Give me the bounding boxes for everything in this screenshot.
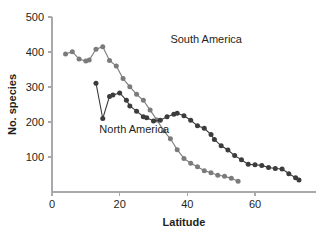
y-tick-label: 100 xyxy=(26,151,44,163)
y-tick-label: 500 xyxy=(26,11,44,23)
y-axis-title: No. species xyxy=(6,74,18,135)
data-point xyxy=(134,109,139,114)
data-point xyxy=(148,108,153,113)
data-point xyxy=(266,165,271,170)
data-point xyxy=(70,49,75,54)
data-point xyxy=(246,162,251,167)
x-tick-label: 60 xyxy=(249,198,261,210)
data-point xyxy=(181,113,186,118)
series-label-north-america: North America xyxy=(99,123,170,135)
data-point xyxy=(225,148,230,153)
data-point xyxy=(77,57,82,62)
data-point xyxy=(93,47,98,52)
series-south-america xyxy=(63,44,241,183)
data-point xyxy=(181,156,186,161)
data-point xyxy=(165,114,170,119)
chart-figure: 1002003004005000204060 South AmericaNort… xyxy=(0,0,319,242)
series-line xyxy=(66,47,239,181)
data-point xyxy=(107,58,112,63)
species-latitude-line-chart: 1002003004005000204060 South AmericaNort… xyxy=(0,0,319,242)
data-point xyxy=(100,116,105,121)
y-tick-label: 300 xyxy=(26,81,44,93)
data-point xyxy=(236,179,241,184)
data-point xyxy=(100,44,105,49)
data-point xyxy=(141,98,146,103)
x-axis-title: Latitude xyxy=(163,216,206,228)
y-tick-label: 200 xyxy=(26,116,44,128)
data-point xyxy=(127,84,132,89)
data-point xyxy=(168,136,173,141)
data-point xyxy=(63,52,68,57)
data-point xyxy=(286,171,291,176)
data-point xyxy=(232,153,237,158)
data-point xyxy=(124,98,129,103)
data-point xyxy=(280,166,285,171)
data-point xyxy=(188,118,193,123)
x-tick-label: 40 xyxy=(181,198,193,210)
data-point xyxy=(273,166,278,171)
data-point xyxy=(121,76,126,81)
data-point xyxy=(296,178,301,183)
data-point xyxy=(222,174,227,179)
data-point xyxy=(253,162,258,167)
data-point xyxy=(259,163,264,168)
data-point xyxy=(212,137,217,142)
data-point xyxy=(202,126,207,131)
data-point xyxy=(134,92,139,97)
x-tick-label: 0 xyxy=(49,198,55,210)
data-point xyxy=(215,173,220,178)
data-point xyxy=(144,115,149,120)
data-point xyxy=(87,58,92,63)
y-tick-label: 400 xyxy=(26,46,44,58)
series-labels-group: South AmericaNorth America xyxy=(99,33,242,134)
x-tick-label: 20 xyxy=(114,198,126,210)
data-point xyxy=(229,176,234,181)
data-point xyxy=(117,90,122,95)
data-point xyxy=(202,168,207,173)
data-point xyxy=(175,147,180,152)
data-point xyxy=(93,81,98,86)
data-point xyxy=(239,157,244,162)
series-label-south-america: South America xyxy=(170,33,242,45)
data-point xyxy=(219,143,224,148)
data-point xyxy=(114,64,119,69)
data-point xyxy=(188,161,193,166)
data-point xyxy=(209,132,214,137)
data-point xyxy=(110,93,115,98)
data-point xyxy=(209,170,214,175)
data-series-group xyxy=(63,44,301,183)
data-point xyxy=(195,123,200,128)
data-point xyxy=(127,103,132,108)
data-point xyxy=(195,164,200,169)
data-point xyxy=(175,111,180,116)
